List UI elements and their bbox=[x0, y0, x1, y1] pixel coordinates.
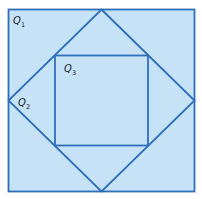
outer-square-q1 bbox=[9, 10, 195, 192]
nested-squares-diagram: Q1 Q2 Q3 bbox=[0, 0, 202, 199]
